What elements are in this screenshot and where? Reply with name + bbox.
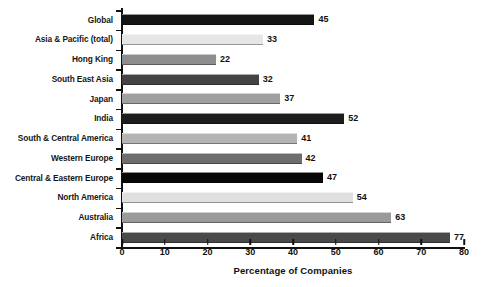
bar-value-label: 52 bbox=[348, 114, 358, 123]
bar bbox=[122, 74, 259, 85]
x-axis-tick-label: 50 bbox=[331, 248, 341, 257]
y-axis-tick bbox=[116, 188, 122, 190]
bar bbox=[122, 113, 344, 124]
bar bbox=[122, 54, 216, 65]
category-label: Hong King bbox=[0, 50, 118, 70]
bar-value-label: 33 bbox=[267, 35, 277, 44]
y-axis-tick bbox=[116, 168, 122, 170]
x-axis-tick-label: 80 bbox=[459, 248, 469, 257]
category-label: Australia bbox=[0, 208, 118, 228]
category-axis-labels: GlobalAsia & Pacific (total)Hong KingSou… bbox=[0, 10, 118, 247]
y-axis-tick bbox=[116, 129, 122, 131]
bar-row: 33 bbox=[122, 30, 464, 50]
bar-row: 32 bbox=[122, 69, 464, 89]
x-axis-tick-label: 70 bbox=[416, 248, 426, 257]
bar bbox=[122, 212, 391, 223]
x-axis-tick bbox=[292, 239, 294, 245]
bar-value-label: 42 bbox=[306, 154, 316, 163]
bar-row: 52 bbox=[122, 109, 464, 129]
y-axis-tick bbox=[116, 109, 122, 111]
y-axis-tick bbox=[116, 148, 122, 150]
bar-row: 22 bbox=[122, 50, 464, 70]
bar bbox=[122, 93, 280, 104]
x-axis-tick-label: 0 bbox=[119, 248, 124, 257]
x-axis-tick bbox=[335, 239, 337, 245]
bar-row: 42 bbox=[122, 148, 464, 168]
y-axis-tick bbox=[116, 10, 122, 12]
bar-value-label: 63 bbox=[395, 213, 405, 222]
bar bbox=[122, 172, 323, 183]
category-label: Japan bbox=[0, 89, 118, 109]
bar-row: 45 bbox=[122, 10, 464, 30]
bar-value-label: 41 bbox=[301, 134, 311, 143]
category-label: North America bbox=[0, 188, 118, 208]
category-label: India bbox=[0, 109, 118, 129]
bar-chart: GlobalAsia & Pacific (total)Hong KingSou… bbox=[0, 0, 484, 287]
bar-value-label: 45 bbox=[318, 15, 328, 24]
category-label: Asia & Pacific (total) bbox=[0, 30, 118, 50]
category-label: Central & Eastern Europe bbox=[0, 168, 118, 188]
bar bbox=[122, 14, 314, 25]
bar-rows: 453322323752414247546377 bbox=[122, 10, 464, 247]
y-axis-tick bbox=[116, 50, 122, 52]
x-axis-tick-label: 20 bbox=[202, 248, 212, 257]
y-axis-tick bbox=[116, 208, 122, 210]
x-axis-tick bbox=[121, 239, 123, 245]
x-axis-tick-labels: 01020304050607080 bbox=[122, 248, 464, 262]
y-axis-tick bbox=[116, 69, 122, 71]
x-axis-tick bbox=[378, 239, 380, 245]
x-axis-tick-label: 10 bbox=[160, 248, 170, 257]
category-label: South & Central America bbox=[0, 129, 118, 149]
category-label: South East Asia bbox=[0, 69, 118, 89]
category-label: Western Europe bbox=[0, 148, 118, 168]
x-axis-tick bbox=[207, 239, 209, 245]
x-axis-tick bbox=[250, 239, 252, 245]
bar-row: 54 bbox=[122, 188, 464, 208]
bar-row: 41 bbox=[122, 129, 464, 149]
bar-value-label: 54 bbox=[357, 193, 367, 202]
bar-value-label: 22 bbox=[220, 55, 230, 64]
bar-row: 37 bbox=[122, 89, 464, 109]
y-axis-tick bbox=[116, 89, 122, 91]
x-axis-tick-label: 40 bbox=[288, 248, 298, 257]
y-axis-tick bbox=[116, 30, 122, 32]
x-axis-tick-label: 60 bbox=[373, 248, 383, 257]
bar-row: 47 bbox=[122, 168, 464, 188]
category-label: Global bbox=[0, 10, 118, 30]
x-axis-tick bbox=[164, 239, 166, 245]
x-axis-title: Percentage of Companies bbox=[122, 265, 464, 276]
x-axis-tick bbox=[421, 239, 423, 245]
y-axis-tick bbox=[116, 227, 122, 229]
x-axis-ticks bbox=[122, 239, 464, 247]
bar bbox=[122, 34, 263, 45]
bar bbox=[122, 153, 302, 164]
bar-value-label: 37 bbox=[284, 94, 294, 103]
x-axis-tick bbox=[463, 239, 465, 245]
bar bbox=[122, 192, 353, 203]
x-axis-tick-label: 30 bbox=[245, 248, 255, 257]
bar bbox=[122, 133, 297, 144]
bar-value-label: 32 bbox=[263, 75, 273, 84]
plot-area: 453322323752414247546377 bbox=[122, 10, 464, 247]
bar-row: 63 bbox=[122, 208, 464, 228]
category-label: Africa bbox=[0, 227, 118, 247]
bar-value-label: 47 bbox=[327, 173, 337, 182]
